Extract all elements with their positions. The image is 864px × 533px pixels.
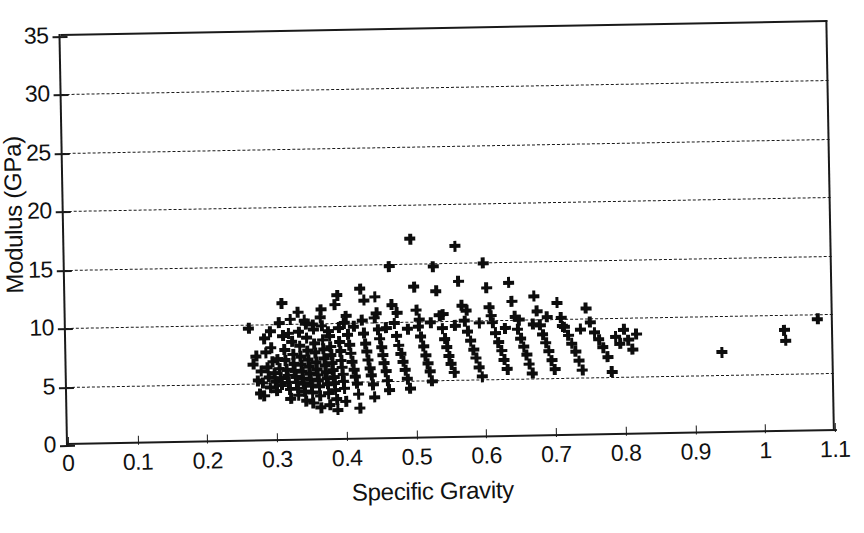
x-tick-label-0.5: 0.5 bbox=[389, 445, 445, 469]
data-point bbox=[379, 358, 390, 369]
data-point bbox=[293, 390, 304, 401]
data-point bbox=[287, 349, 298, 360]
data-point bbox=[405, 233, 416, 244]
data-point bbox=[299, 315, 310, 326]
x-tick-label-0.4: 0.4 bbox=[319, 446, 375, 470]
data-point bbox=[324, 331, 335, 342]
data-point bbox=[279, 344, 290, 355]
data-point bbox=[263, 371, 274, 382]
data-point bbox=[332, 404, 343, 415]
data-point bbox=[332, 290, 343, 301]
data-point bbox=[315, 390, 326, 401]
data-point bbox=[304, 361, 315, 372]
data-point bbox=[303, 354, 314, 365]
data-point bbox=[334, 336, 345, 347]
data-point bbox=[271, 385, 282, 396]
data-point bbox=[431, 285, 442, 296]
data-point bbox=[309, 338, 320, 349]
data-point bbox=[446, 359, 457, 370]
data-point bbox=[531, 306, 542, 317]
data-point bbox=[575, 324, 586, 335]
data-point bbox=[266, 342, 277, 353]
data-point bbox=[408, 281, 419, 292]
data-point bbox=[543, 345, 554, 356]
data-point bbox=[304, 368, 315, 379]
data-point bbox=[248, 359, 259, 370]
data-point bbox=[353, 388, 364, 399]
x-axis-title: Specific Gravity bbox=[1, 469, 864, 513]
data-point bbox=[413, 321, 424, 332]
data-point bbox=[262, 362, 273, 373]
data-point bbox=[465, 335, 476, 346]
data-point bbox=[427, 375, 438, 386]
data-point bbox=[456, 300, 467, 311]
data-point bbox=[540, 337, 551, 348]
data-point bbox=[318, 344, 329, 355]
data-point bbox=[288, 358, 299, 369]
data-point bbox=[366, 370, 377, 381]
data-point bbox=[298, 378, 309, 389]
data-point bbox=[437, 309, 448, 320]
data-point bbox=[512, 324, 523, 335]
data-point bbox=[549, 364, 560, 375]
data-point bbox=[259, 390, 270, 401]
data-point bbox=[265, 382, 276, 393]
data-point bbox=[307, 319, 318, 330]
data-point bbox=[272, 354, 283, 365]
data-point bbox=[374, 333, 385, 344]
y-tick-label-group: 05101520253035 bbox=[0, 0, 856, 1]
data-point bbox=[499, 354, 510, 365]
data-point bbox=[345, 348, 356, 359]
x-tick-label-0.8: 0.8 bbox=[598, 441, 654, 465]
data-point bbox=[285, 384, 296, 395]
gridlines-group bbox=[0, 0, 856, 1]
data-point bbox=[348, 364, 359, 375]
data-point bbox=[274, 363, 285, 374]
data-point bbox=[285, 393, 296, 404]
data-point bbox=[614, 338, 625, 349]
data-point bbox=[308, 324, 319, 335]
data-point bbox=[252, 375, 263, 386]
data-point bbox=[276, 298, 287, 309]
data-point bbox=[566, 338, 577, 349]
data-point bbox=[389, 318, 400, 329]
scatter-chart-figure: 05101520253035 00.10.20.30.40.50.60.70.8… bbox=[0, 0, 864, 533]
data-point bbox=[551, 297, 562, 308]
data-point bbox=[315, 312, 326, 323]
data-point bbox=[319, 353, 330, 364]
data-point bbox=[296, 359, 307, 370]
data-point bbox=[351, 378, 362, 389]
x-tick-label-0.3: 0.3 bbox=[249, 448, 305, 472]
data-point bbox=[307, 387, 318, 398]
data-point bbox=[506, 296, 517, 307]
data-point bbox=[243, 323, 254, 334]
data-point bbox=[414, 314, 425, 325]
data-point bbox=[281, 364, 292, 375]
x-tick-1.1 bbox=[835, 423, 836, 432]
x-tick-label-group: 00.10.20.30.40.50.60.70.80.911.1 bbox=[0, 0, 856, 1]
data-point bbox=[337, 369, 348, 380]
x-tick-label-0.6: 0.6 bbox=[458, 444, 514, 468]
data-point bbox=[329, 377, 340, 388]
data-point bbox=[418, 341, 429, 352]
data-point bbox=[509, 311, 520, 322]
data-point bbox=[369, 392, 380, 403]
data-point bbox=[302, 345, 313, 356]
data-point bbox=[481, 282, 492, 293]
data-point bbox=[395, 348, 406, 359]
x-tick-label-1.1: 1.1 bbox=[807, 437, 863, 461]
data-point bbox=[270, 376, 281, 387]
data-point bbox=[573, 355, 584, 366]
data-point bbox=[474, 317, 485, 328]
data-point bbox=[386, 299, 397, 310]
data-point bbox=[316, 320, 327, 331]
data-point bbox=[559, 322, 570, 333]
data-point bbox=[400, 364, 411, 375]
data-point bbox=[490, 328, 501, 339]
data-point bbox=[513, 314, 524, 325]
data-point bbox=[393, 340, 404, 351]
data-point bbox=[298, 373, 309, 384]
data-point bbox=[602, 351, 613, 362]
data-point bbox=[627, 344, 638, 355]
data-point bbox=[484, 302, 495, 313]
